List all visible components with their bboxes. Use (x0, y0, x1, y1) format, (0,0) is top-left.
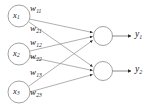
neural-network-diagram: x1 x2 x3 w11 w21 w12 w22 w13 w23 y1 y2 (0, 0, 155, 109)
weight-subscript-w23: 23 (36, 92, 42, 98)
weight-subscript-w11: 11 (36, 8, 41, 14)
input-subscript-x1: 1 (17, 14, 20, 20)
input-node-label-x3: x3 (13, 87, 19, 96)
weight-subscript-w13: 13 (36, 72, 42, 78)
output-label-y2: y2 (135, 65, 142, 75)
weight-label-w13: w13 (30, 68, 42, 77)
weight-label-w11: w11 (30, 4, 41, 13)
input-subscript-x3: 3 (17, 90, 20, 96)
weight-subscript-w22: 22 (36, 56, 42, 62)
weight-label-w12: w12 (30, 38, 42, 47)
weight-label-w23: w23 (30, 88, 42, 97)
weight-subscript-w21: 21 (36, 28, 42, 34)
output-subscript-y1: 1 (139, 34, 142, 40)
weight-label-w22: w22 (30, 52, 42, 61)
diagram-canvas (0, 0, 155, 109)
weight-subscript-w12: 12 (36, 42, 42, 48)
output-node-n1 (94, 27, 113, 46)
input-node-label-x1: x1 (13, 11, 19, 20)
input-subscript-x2: 2 (17, 52, 20, 58)
output-subscript-y2: 2 (139, 69, 142, 75)
output-label-y1: y1 (135, 30, 142, 40)
output-node-n2 (94, 62, 113, 81)
weight-label-w21: w21 (30, 24, 42, 33)
input-node-label-x2: x2 (13, 49, 19, 58)
